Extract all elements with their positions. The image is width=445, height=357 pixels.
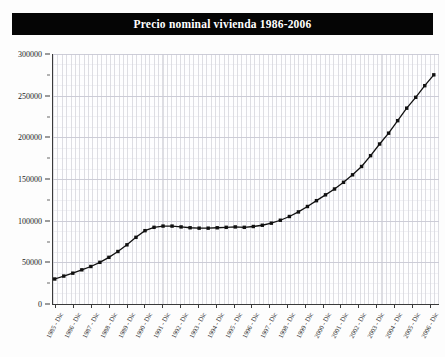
data-point-marker <box>414 96 417 99</box>
data-point-marker <box>234 225 237 228</box>
data-point-marker <box>279 219 282 222</box>
data-point-marker <box>170 224 173 227</box>
data-point-marker <box>396 119 399 122</box>
data-point-marker <box>288 215 291 218</box>
x-axis-tick-mark <box>216 305 217 308</box>
x-axis-tick-mark <box>287 305 288 308</box>
x-axis-tick-label: 1996 - Dic <box>241 311 260 339</box>
data-point-marker <box>423 84 426 87</box>
data-point-marker <box>243 226 246 229</box>
x-axis-tick-mark <box>394 305 395 308</box>
y-axis-tick-label: 50000 <box>22 258 42 267</box>
x-axis-tick-label: 1998 - Dic <box>277 311 296 339</box>
data-point-marker <box>71 271 74 274</box>
x-axis-tick-label: 2006 - Dic <box>419 311 438 339</box>
data-point-marker <box>206 226 209 229</box>
chart-title-banner: Precio nominal vivienda 1986-2006 <box>12 13 433 35</box>
data-point-marker <box>225 226 228 229</box>
data-point-marker <box>306 205 309 208</box>
y-axis-tick-label: 100000 <box>18 216 42 225</box>
data-series-layer <box>53 54 439 304</box>
data-point-marker <box>143 229 146 232</box>
data-point-marker <box>98 261 101 264</box>
data-point-marker <box>342 181 345 184</box>
data-point-marker <box>125 243 128 246</box>
y-axis-minor-tick-mark <box>47 74 50 75</box>
data-point-marker <box>179 225 182 228</box>
x-axis-tick-mark <box>109 305 110 308</box>
data-point-marker <box>405 106 408 109</box>
x-axis-tick-mark <box>358 305 359 308</box>
plot-area <box>52 54 439 305</box>
x-axis-tick-label: 2005 - Dic <box>402 311 421 339</box>
x-axis-tick-label: 2003 - Dic <box>366 311 385 339</box>
series-line <box>55 75 434 279</box>
y-axis-tick-mark <box>45 179 50 180</box>
y-axis-tick-label: 150000 <box>18 175 42 184</box>
x-axis: 1985 - Dic1986 - Dic1987 - Dic1988 - Dic… <box>52 305 438 357</box>
data-point-marker <box>188 226 191 229</box>
y-axis-tick-label: 250000 <box>18 91 42 100</box>
x-axis-tick-label: 1988 - Dic <box>98 311 117 339</box>
data-point-marker <box>53 277 56 280</box>
data-point-marker <box>116 250 119 253</box>
x-axis-tick-label: 1997 - Dic <box>259 311 278 339</box>
data-point-marker <box>324 193 327 196</box>
data-point-marker <box>297 210 300 213</box>
page-title: Precio nominal vivienda 1986-2006 <box>134 18 312 30</box>
x-axis-tick-mark <box>305 305 306 308</box>
y-axis-tick-label: 0 <box>38 300 42 309</box>
y-axis-minor-tick-mark <box>47 158 50 159</box>
chart-figure: Precio nominal vivienda 1986-2006 050000… <box>0 0 445 357</box>
y-axis-minor-tick-mark <box>47 116 50 117</box>
x-axis-tick-label: 1992 - Dic <box>170 311 189 339</box>
x-axis-tick-label: 2004 - Dic <box>384 311 403 339</box>
y-axis: 050000100000150000200000250000300000 <box>0 54 50 304</box>
data-point-marker <box>270 221 273 224</box>
x-axis-tick-mark <box>323 305 324 308</box>
data-point-marker <box>432 73 435 76</box>
x-axis-tick-mark <box>376 305 377 308</box>
data-point-marker <box>252 225 255 228</box>
data-point-marker <box>378 142 381 145</box>
x-axis-tick-label: 1986 - Dic <box>63 311 82 339</box>
x-axis-tick-mark <box>127 305 128 308</box>
data-point-marker <box>360 165 363 168</box>
x-axis-tick-mark <box>234 305 235 308</box>
x-axis-tick-mark <box>198 305 199 308</box>
x-axis-tick-label: 1985 - Dic <box>45 311 64 339</box>
x-axis-tick-label: 1987 - Dic <box>81 311 100 339</box>
y-axis-tick-mark <box>45 95 50 96</box>
x-axis-tick-mark <box>430 305 431 308</box>
x-axis-tick-label: 1990 - Dic <box>134 311 153 339</box>
y-axis-minor-tick-mark <box>47 199 50 200</box>
x-axis-tick-label: 1994 - Dic <box>205 311 224 339</box>
x-axis-tick-label: 2002 - Dic <box>348 311 367 339</box>
data-point-marker <box>161 224 164 227</box>
data-point-marker <box>80 268 83 271</box>
y-axis-tick-mark <box>45 54 50 55</box>
y-axis-tick-mark <box>45 262 50 263</box>
data-point-marker <box>261 224 264 227</box>
data-point-marker <box>369 154 372 157</box>
data-point-marker <box>351 173 354 176</box>
data-point-marker <box>62 274 65 277</box>
y-axis-minor-tick-mark <box>47 283 50 284</box>
data-point-marker <box>134 236 137 239</box>
x-axis-tick-label: 1999 - Dic <box>295 311 314 339</box>
data-point-marker <box>107 256 110 259</box>
x-axis-tick-mark <box>162 305 163 308</box>
x-axis-tick-label: 1993 - Dic <box>188 311 207 339</box>
x-axis-tick-mark <box>91 305 92 308</box>
data-point-marker <box>315 199 318 202</box>
x-axis-tick-mark <box>144 305 145 308</box>
x-axis-tick-label: 1991 - Dic <box>152 311 171 339</box>
y-axis-tick-label: 200000 <box>18 133 42 142</box>
y-axis-tick-mark <box>45 137 50 138</box>
data-point-marker <box>89 265 92 268</box>
y-axis-tick-mark <box>45 304 50 305</box>
y-axis-minor-tick-mark <box>47 241 50 242</box>
data-point-marker <box>152 226 155 229</box>
x-axis-tick-mark <box>251 305 252 308</box>
y-axis-tick-label: 300000 <box>18 50 42 59</box>
